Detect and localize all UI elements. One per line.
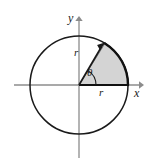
circle-sector-svg <box>0 0 152 167</box>
slant-radius-label: r <box>74 47 78 58</box>
y-axis-arrowhead-icon <box>75 16 82 21</box>
y-axis-label: y <box>68 12 73 24</box>
x-axis-arrowhead-icon <box>139 81 144 88</box>
figure-canvas: y x r r θ <box>0 0 152 167</box>
y-axis <box>75 16 82 158</box>
x-axis-label: x <box>134 87 139 99</box>
angle-label: θ <box>87 67 92 78</box>
horizontal-radius-label: r <box>99 87 103 98</box>
shaded-sector <box>79 43 128 85</box>
